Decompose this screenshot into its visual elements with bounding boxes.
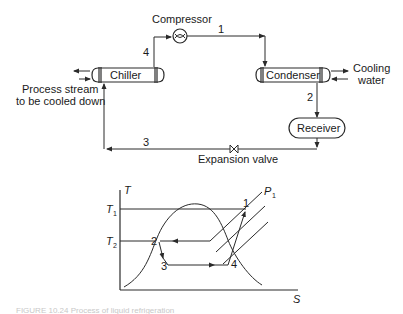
p1-label: P (264, 185, 272, 197)
stream-3-label: 3 (143, 136, 149, 148)
condenser: Condenser (256, 67, 330, 83)
ts-diagram: T S T 1 T 2 P 1 1 2 3 4 (106, 184, 301, 305)
point-4-label: 4 (231, 258, 237, 270)
chiller: Chiller (92, 67, 164, 83)
stream-4-label: 4 (143, 46, 149, 58)
receiver: Receiver (289, 118, 345, 138)
compressor-label: Compressor (152, 13, 212, 25)
expansion-valve: Expansion valve (198, 145, 278, 165)
stream-2: 2 (307, 83, 317, 117)
svg-text:1: 1 (272, 192, 276, 199)
s-axis-label: S (293, 293, 301, 305)
stream-1: 1 (187, 23, 265, 66)
svg-text:1: 1 (113, 210, 117, 217)
valve-icon (230, 145, 238, 153)
stream-2-label: 2 (307, 91, 313, 103)
expansion-valve-label: Expansion valve (198, 153, 278, 165)
stream-1-label: 1 (218, 23, 224, 35)
process-stream-label-1: Process stream (22, 83, 98, 95)
refrigeration-diagram: Compressor 4 1 Chiller Process stream to… (0, 0, 403, 314)
condenser-label: Condenser (266, 69, 320, 81)
point-1-label: 1 (243, 197, 249, 209)
receiver-label: Receiver (297, 122, 341, 134)
compressor-icon (173, 29, 187, 43)
point-2-label: 2 (151, 235, 157, 247)
compressor: Compressor (152, 13, 212, 43)
figure-caption: FIGURE 10.24 Process of liquid refrigera… (16, 306, 174, 314)
stream-4: 4 (143, 37, 171, 67)
svg-text:2: 2 (113, 242, 117, 249)
stream-3: 3 (104, 84, 317, 149)
cooling-water-label-1: Cooling (353, 62, 390, 74)
saturation-dome (124, 204, 262, 287)
process-stream-label-2: to be cooled down (16, 95, 105, 107)
cooling-water: Cooling water (331, 62, 390, 86)
cooling-water-label-2: water (357, 74, 385, 86)
t-axis-label: T (124, 184, 132, 196)
chiller-label: Chiller (110, 69, 142, 81)
point-3-label: 3 (161, 260, 167, 272)
